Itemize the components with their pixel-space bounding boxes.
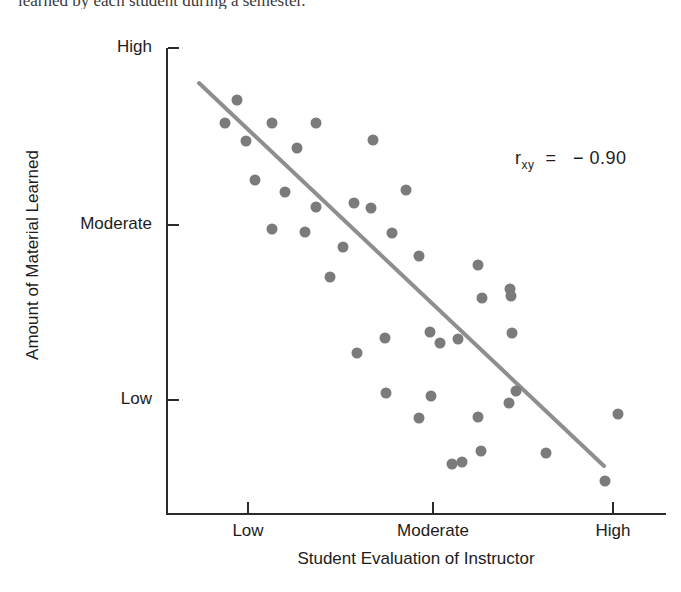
data-point	[507, 328, 518, 339]
data-point	[220, 118, 231, 129]
correlation-value: − 0.90	[573, 148, 627, 168]
correlation-equals: =	[540, 148, 568, 168]
data-point	[349, 198, 360, 209]
data-point	[380, 333, 391, 344]
data-point	[300, 227, 311, 238]
x-axis-tick-label: High	[596, 521, 631, 541]
data-point	[477, 293, 488, 304]
data-point	[511, 386, 522, 397]
data-point	[401, 185, 412, 196]
y-axis-tick-label: High	[0, 37, 152, 57]
x-axis-tick	[247, 502, 249, 514]
data-point	[457, 457, 468, 468]
x-axis-tick-label: Low	[232, 521, 263, 541]
data-point	[387, 228, 398, 239]
data-point	[366, 203, 377, 214]
plot-canvas	[0, 0, 681, 592]
data-point	[505, 284, 516, 295]
data-point	[447, 459, 458, 470]
data-point	[292, 143, 303, 154]
data-point	[311, 202, 322, 213]
data-point	[232, 95, 243, 106]
correlation-symbol: rxy	[515, 148, 535, 168]
data-point	[267, 118, 278, 129]
y-axis-line	[166, 48, 168, 515]
x-axis-tick	[432, 502, 434, 514]
correlation-annotation: rxy = − 0.90	[515, 148, 627, 172]
data-point	[541, 448, 552, 459]
data-point	[267, 224, 278, 235]
data-point	[426, 391, 437, 402]
data-point	[241, 136, 252, 147]
y-axis-tick	[168, 47, 179, 49]
data-point	[250, 175, 261, 186]
data-point	[473, 260, 484, 271]
data-point	[338, 242, 349, 253]
trend-line	[199, 83, 604, 466]
data-point	[325, 272, 336, 283]
data-point	[600, 476, 611, 487]
x-axis-title: Student Evaluation of Instructor	[166, 549, 666, 569]
data-point	[504, 398, 515, 409]
data-point	[368, 135, 379, 146]
x-axis-line	[166, 513, 666, 515]
data-point	[381, 388, 392, 399]
data-point	[311, 118, 322, 129]
x-axis-tick-label: Moderate	[397, 521, 469, 541]
data-point	[473, 412, 484, 423]
data-point	[425, 327, 436, 338]
data-point	[453, 334, 464, 345]
scatter-plot-figure: HighModerateLowLowModerateHigh Amount of…	[0, 0, 681, 592]
data-point	[506, 291, 517, 302]
data-point	[476, 446, 487, 457]
data-point	[613, 409, 624, 420]
y-axis-tick	[168, 224, 179, 226]
data-point	[414, 413, 425, 424]
data-point	[435, 338, 446, 349]
data-point	[352, 348, 363, 359]
data-point	[280, 187, 291, 198]
x-axis-tick	[612, 502, 614, 514]
figure-root: learned by each student during a semeste…	[0, 0, 681, 592]
y-axis-tick	[168, 399, 179, 401]
data-point	[414, 251, 425, 262]
y-axis-title: Amount of Material Learned	[23, 105, 43, 405]
